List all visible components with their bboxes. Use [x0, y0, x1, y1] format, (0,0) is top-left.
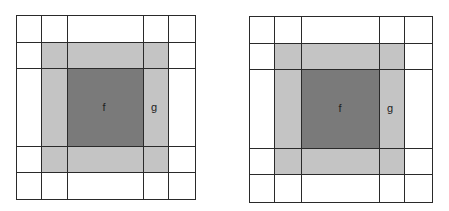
grid-line-horizontal: [249, 16, 433, 17]
right-label-g: g: [387, 103, 393, 114]
cell-ring-g: [41, 42, 67, 68]
grid-line-horizontal: [249, 148, 433, 149]
cell-ring-g: [143, 146, 168, 172]
cell-ring-g: [41, 68, 67, 146]
cell-ring-g: [301, 148, 379, 174]
cell-ring-g: [301, 43, 379, 69]
cell-ring-g: [274, 69, 301, 148]
grid-line-horizontal: [16, 42, 196, 43]
cell-ring-g: [67, 146, 143, 172]
cell-ring-g: [143, 42, 168, 68]
grid-line-horizontal: [249, 202, 433, 203]
grid-line-horizontal: [16, 199, 196, 200]
cell-ring-g: [274, 148, 301, 174]
cell-ring-g: [274, 43, 301, 69]
grid-line-horizontal: [249, 43, 433, 44]
cell-ring-g: [67, 42, 143, 68]
grid-line-horizontal: [16, 15, 196, 16]
cell-ring-g: [41, 146, 67, 172]
grid-line-horizontal: [249, 69, 433, 70]
grid-line-horizontal: [16, 172, 196, 173]
left-label-f: f: [102, 102, 105, 113]
grid-line-horizontal: [249, 174, 433, 175]
cell-ring-g: [379, 148, 404, 174]
cell-ring-g: [379, 43, 404, 69]
grid-line-horizontal: [16, 146, 196, 147]
right-label-f: f: [338, 103, 341, 114]
grid-line-horizontal: [16, 68, 196, 69]
left-label-g: g: [151, 102, 157, 113]
